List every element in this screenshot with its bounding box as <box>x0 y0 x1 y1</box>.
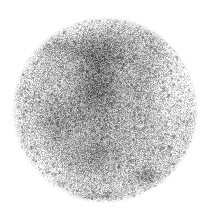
image-viewport: Spherical textured body Grayscale speckl… <box>0 0 215 222</box>
sphere-image-canvas <box>0 0 215 222</box>
